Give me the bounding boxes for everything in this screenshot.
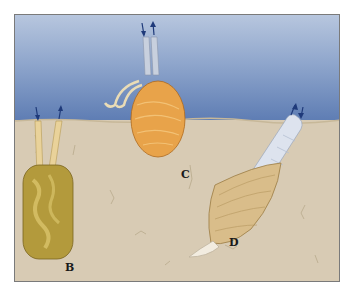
figure-frame: B C D [14, 14, 340, 282]
label-d: D [229, 236, 239, 249]
label-b: B [65, 261, 74, 274]
clam-d [189, 103, 304, 257]
illustration [15, 15, 340, 282]
label-c: C [181, 168, 190, 181]
clam-b [23, 105, 73, 259]
clam-c [105, 21, 185, 157]
